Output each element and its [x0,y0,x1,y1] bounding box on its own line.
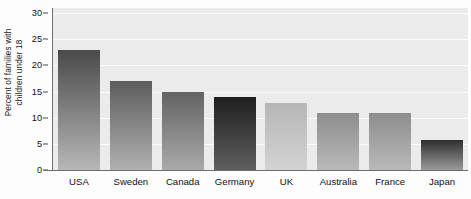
y-tick-label: 20 [22,60,42,70]
y-tick-mark [43,143,48,144]
y-axis-title-line-1: Percent of families with [3,29,13,117]
x-tick-label: UK [280,176,293,187]
bar-fill [58,50,100,170]
y-axis-title: Percent of families with children under … [3,0,24,148]
y-tick-mark [43,65,48,66]
y-axis-line [52,8,53,170]
x-tick-label: Japan [429,176,455,187]
bar-fill [110,81,152,170]
y-tick-label: 30 [22,8,42,18]
bar-germany [214,97,256,170]
y-tick-mark [43,91,48,92]
gridline [53,13,468,14]
y-axis-ticks: 051015202530 [24,0,48,170]
bar-france [369,113,411,170]
x-tick-label: Canada [166,176,200,187]
bar-fill [421,140,463,170]
bar-canada [162,92,204,170]
gridline [53,39,468,40]
x-axis-labels: USASwedenCanadaGermanyUKAustraliaFranceJ… [53,174,468,196]
bar-fill [214,97,256,170]
x-tick-label: USA [69,176,89,187]
x-tick-label: Sweden [113,176,148,187]
y-tick-mark [43,39,48,40]
y-tick-mark [43,117,48,118]
gridline [53,65,468,66]
bar-uk [265,103,307,170]
x-tick-label: Germany [215,176,254,187]
bar-japan [421,140,463,170]
bar-chart: Percent of families with children under … [0,0,471,199]
bar-sweden [110,81,152,170]
x-axis-line [44,170,468,171]
y-tick-label: 5 [22,139,42,149]
bar-usa [58,50,100,170]
bar-fill [317,113,359,170]
bar-fill [265,103,307,170]
x-tick-label: France [375,176,405,187]
y-tick-mark [43,13,48,14]
bar-fill [162,92,204,170]
plot-area [53,8,468,170]
bar-fill [369,113,411,170]
y-tick-label: 15 [22,87,42,97]
y-tick-label: 10 [22,113,42,123]
y-tick-label: 25 [22,34,42,44]
bar-australia [317,113,359,170]
x-tick-label: Australia [320,176,357,187]
y-tick-label: 0 [22,165,42,175]
